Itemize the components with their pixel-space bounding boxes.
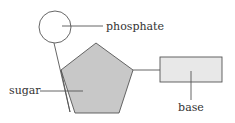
- base-label: base: [178, 101, 204, 114]
- phosphate-circle: [39, 11, 71, 43]
- nucleotide-diagram: phosphate sugar base: [0, 0, 235, 123]
- phosphate-label: phosphate: [106, 20, 164, 33]
- sugar-pentagon: [61, 43, 133, 113]
- sugar-label: sugar: [9, 84, 41, 97]
